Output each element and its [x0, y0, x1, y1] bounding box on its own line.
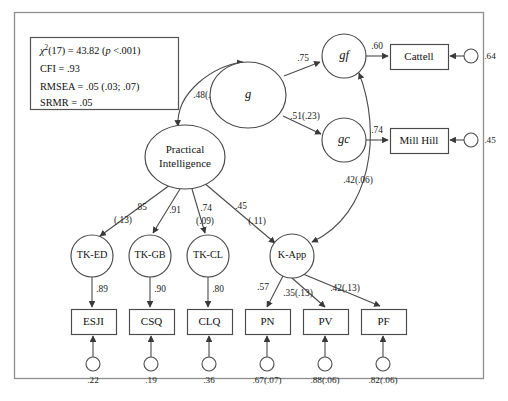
coef-pi-to-tkgb: .91: [169, 205, 181, 215]
path-kapp-to-pf: .42(.13): [303, 274, 380, 306]
latent-node-tked[interactable]: TK-ED: [71, 235, 113, 277]
coef-kapp-to-pn: .57: [257, 282, 269, 292]
error-value-e-pf: .82(.06): [368, 375, 397, 385]
observed-node-pn[interactable]: PN: [246, 310, 291, 335]
node-label-csq: CSQ: [141, 315, 162, 327]
error-term-e-esji: .22: [86, 336, 100, 385]
error-value-e-cattell: .64: [484, 51, 496, 61]
error-circle-e-pv: [318, 357, 332, 371]
error-value-e-pn: .67(.07): [252, 375, 281, 385]
path-tkcl-to-clq: .80: [208, 277, 224, 307]
coef-tked-to-esji: .89: [96, 284, 108, 294]
latent-node-practical[interactable]: PracticalIntelligence: [145, 125, 225, 189]
coef-tkgb-to-csq: .90: [154, 284, 166, 294]
fit-chi-square: χ2(17) = 43.82 (p <.001): [39, 44, 140, 58]
latent-node-kapp[interactable]: K-App: [270, 234, 314, 278]
error-circle-e-pn: [260, 357, 274, 371]
path-pi-to-kapp: .45(.11): [203, 182, 275, 243]
error-value-e-csq: .19: [145, 375, 157, 385]
latent-node-tkcl[interactable]: TK-CL: [187, 235, 229, 277]
error-circle-e-cattell: [464, 49, 478, 63]
node-label-tked: TK-ED: [77, 249, 108, 260]
node-label-pv: PV: [318, 315, 332, 327]
coef-se-pi-to-tked: (.13): [114, 215, 132, 226]
observed-node-cattell[interactable]: Cattell: [391, 45, 449, 70]
node-label-g: g: [245, 87, 251, 101]
latent-node-gc[interactable]: gc: [322, 118, 366, 162]
latent-node-tkgb[interactable]: TK-GB: [129, 235, 171, 277]
coef-se-pi-to-kapp: (.11): [248, 216, 266, 227]
node-label-gc: gc: [338, 132, 350, 146]
observed-node-millhill[interactable]: Mill Hill: [391, 129, 449, 154]
error-term-e-csq: .19: [144, 336, 158, 385]
path-g-to-gc: .51(.23): [283, 111, 321, 134]
node-label-clq: CLQ: [199, 315, 221, 327]
fit-rmsea: RMSEA = .05 (.03; .07): [40, 81, 139, 93]
node-label-pf: PF: [377, 315, 389, 327]
error-term-e-millhill: .45: [450, 133, 496, 147]
error-circle-e-pf: [376, 357, 390, 371]
path-gf-to-cattell: .60: [366, 41, 388, 56]
path-kapp-to-pn: .57: [257, 276, 283, 307]
path-tked-to-esji: .89: [92, 277, 108, 307]
observed-node-esji[interactable]: ESJI: [72, 310, 117, 335]
error-value-e-esji: .22: [87, 375, 99, 385]
node-label-tkgb: TK-GB: [134, 249, 165, 260]
path-pi-to-tkcl: .74(.09): [192, 189, 214, 233]
fit-srmr: SRMR = .05: [40, 97, 92, 108]
error-term-e-pf: .82(.06): [368, 336, 397, 385]
coef-kapp-to-pv: .35(.13): [283, 288, 313, 299]
path-kapp-to-pv: .35(.13): [283, 278, 325, 307]
path-diagram: .75.51(.23).60.74.48(.03).42(.06).85(.13…: [0, 0, 508, 401]
error-circle-e-clq: [202, 357, 216, 371]
error-value-e-millhill: .45: [484, 135, 496, 145]
observed-node-csq[interactable]: CSQ: [130, 310, 175, 335]
path-line-kapp-to-pn: [267, 276, 283, 307]
error-circle-e-esji: [86, 357, 100, 371]
observed-node-clq[interactable]: CLQ: [188, 310, 233, 335]
path-gc-to-millhill: .74: [366, 125, 388, 140]
coef-g-to-gc: .51(.23): [290, 111, 320, 122]
path-pi-to-tkgb: .91: [153, 189, 181, 233]
path-line-pi-to-kapp: [203, 182, 275, 243]
observed-node-pf[interactable]: PF: [362, 310, 407, 335]
coef-kapp-to-pf: .42(.13): [330, 283, 360, 294]
node-label-pn: PN: [260, 315, 274, 327]
coef-se-pi-to-tkcl: (.09): [196, 216, 214, 227]
figure-canvas: .75.51(.23).60.74.48(.03).42(.06).85(.13…: [0, 0, 508, 401]
error-term-e-pv: .88(.06): [310, 336, 339, 385]
observed-node-pv[interactable]: PV: [304, 310, 349, 335]
error-term-e-cattell: .64: [450, 49, 496, 63]
coef-gf-to-cattell: .60: [371, 41, 383, 51]
coef-pi-to-tked: .85: [135, 202, 147, 212]
path-line-g-to-gf: [284, 62, 320, 76]
latent-node-gf[interactable]: gf: [322, 34, 366, 78]
coef-gc-to-millhill: .74: [371, 125, 383, 135]
coef-g-to-gf: .75: [297, 53, 309, 63]
error-circle-e-millhill: [464, 133, 478, 147]
error-value-e-clq: .36: [203, 375, 215, 385]
latent-node-g[interactable]: g: [210, 62, 286, 128]
error-term-e-pn: .67(.07): [252, 336, 281, 385]
fit-statistics-box: χ2(17) = 43.82 (p <.001) CFI = .93 RMSEA…: [31, 38, 179, 110]
path-pi-to-tked: .85(.13): [100, 185, 170, 236]
coef-tkcl-to-clq: .80: [212, 284, 224, 294]
node-label-kapp: K-App: [278, 249, 306, 260]
error-circle-e-csq: [144, 357, 158, 371]
fit-cfi: CFI = .93: [40, 63, 80, 74]
error-value-e-pv: .88(.06): [310, 375, 339, 385]
path-tkgb-to-csq: .90: [150, 277, 166, 307]
coef-pi-to-kapp: .45: [235, 201, 247, 211]
node-label-cattell: Cattell: [404, 50, 433, 62]
path-g-to-gf: .75: [284, 53, 320, 76]
coef-gf-with-kapp: .42(.06): [343, 175, 373, 186]
node-label-gf: gf: [339, 48, 350, 62]
coef-pi-to-tkcl: .74: [200, 203, 212, 213]
node-label-millhill: Mill Hill: [400, 134, 439, 146]
node-label-esji: ESJI: [83, 315, 104, 327]
node-label-tkcl: TK-CL: [193, 249, 223, 260]
error-term-e-clq: .36: [202, 336, 216, 385]
